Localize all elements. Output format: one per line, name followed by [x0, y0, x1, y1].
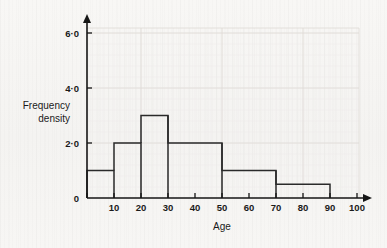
x-tick-label: 10	[109, 202, 120, 213]
x-axis-title: Age	[213, 221, 231, 232]
histogram-bar	[87, 171, 114, 199]
y-tick-label: 6·0	[65, 28, 79, 39]
y-axis-title-line1: Frequency	[23, 100, 70, 111]
y-tick-label: 2·0	[65, 138, 79, 149]
x-tick-label: 60	[244, 202, 255, 213]
histogram-bar	[114, 143, 141, 198]
histogram-figure: 102030405060708090100 02·04·06·0 Frequen…	[0, 0, 387, 248]
x-tick-label: 100	[349, 202, 365, 213]
x-tick-label: 30	[163, 202, 174, 213]
chart-gridlines	[87, 28, 359, 198]
y-axis-title-line2: density	[38, 113, 70, 124]
x-tick-label: 90	[325, 202, 336, 213]
histogram-bar	[141, 116, 168, 199]
x-tick-label: 20	[136, 202, 147, 213]
x-axis-ticks: 102030405060708090100	[87, 193, 365, 213]
y-axis-arrow-icon	[83, 14, 91, 23]
y-tick-label: 4·0	[65, 83, 79, 94]
x-tick-label: 70	[271, 202, 282, 213]
y-tick-label: 0	[74, 193, 79, 204]
x-tick-label: 40	[190, 202, 201, 213]
x-tick-label: 80	[298, 202, 309, 213]
x-tick-label: 50	[217, 202, 228, 213]
histogram-bars	[87, 116, 330, 199]
frequency-density-histogram: 102030405060708090100 02·04·06·0 Frequen…	[0, 0, 387, 248]
x-axis-arrow-icon	[363, 194, 372, 202]
